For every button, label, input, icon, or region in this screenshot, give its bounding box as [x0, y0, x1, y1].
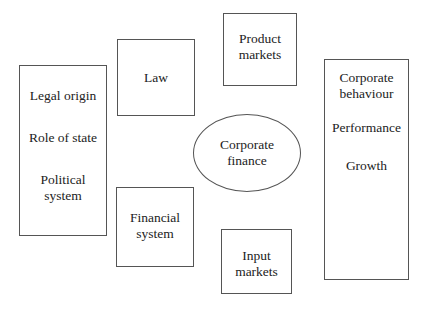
- corporate-finance-label: Corporate finance: [220, 137, 274, 169]
- corporate-behaviour-label: Corporate behaviour: [325, 70, 408, 102]
- law-label: Law: [144, 70, 168, 86]
- performance-label: Performance: [325, 120, 408, 136]
- left-box: Legal origin Role of state Political sys…: [19, 65, 107, 236]
- input-markets-box: Input markets: [221, 229, 292, 294]
- product-markets-label: Product markets: [224, 31, 296, 63]
- legal-origin-label: Legal origin: [20, 88, 106, 104]
- input-markets-label: Input markets: [222, 248, 291, 280]
- political-system-label: Political system: [20, 172, 106, 204]
- role-of-state-label: Role of state: [20, 130, 106, 146]
- product-markets-box: Product markets: [223, 13, 297, 86]
- financial-system-box: Financial system: [116, 187, 194, 267]
- growth-label: Growth: [325, 158, 408, 174]
- right-box: Corporate behaviour Performance Growth: [324, 59, 409, 280]
- financial-system-label: Financial system: [117, 210, 193, 242]
- corporate-finance-ellipse: Corporate finance: [193, 114, 301, 192]
- law-box: Law: [117, 39, 195, 116]
